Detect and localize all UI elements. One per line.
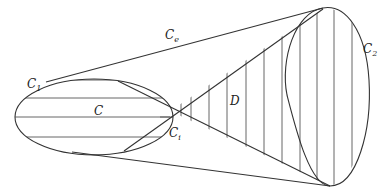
label-d: D [229, 94, 240, 108]
outer-tangent-top [46, 8, 323, 82]
curve-c2 [285, 8, 369, 186]
label-c2: C2 [363, 42, 377, 58]
outer-tangent-bottom [72, 152, 330, 186]
label-ce: Ce [165, 28, 179, 44]
label-c1: C1 [27, 77, 41, 93]
label-ci: Ci [169, 126, 181, 142]
inner-tangent-2 [124, 9, 323, 151]
inner-tangent-1 [118, 81, 330, 186]
label-c: C [94, 104, 103, 118]
diagram-canvas: C1 C Ce Ci D C2 [0, 0, 387, 196]
d-hatching [181, 0, 352, 196]
